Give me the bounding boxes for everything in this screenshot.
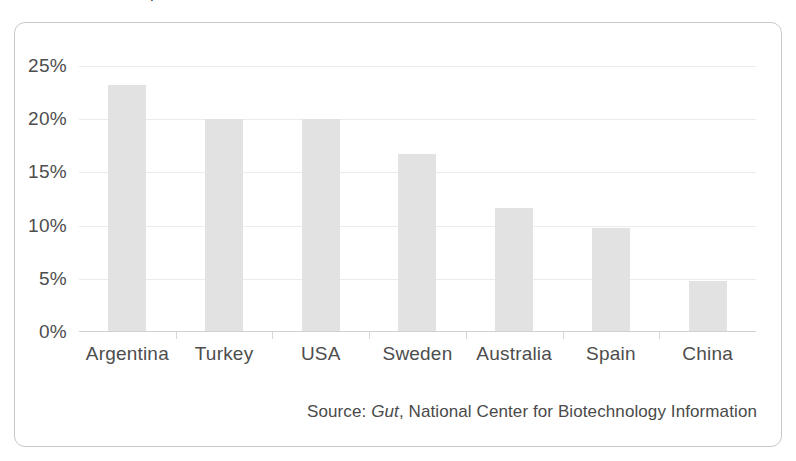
x-tick-label: Turkey	[195, 343, 254, 365]
category-label-slot: USA	[272, 66, 369, 332]
y-tick-label: 20%	[28, 108, 67, 130]
x-axis-tick	[659, 332, 660, 339]
category-label-slot: Argentina	[79, 66, 176, 332]
x-axis-tick	[176, 332, 177, 339]
category-label-slot: Australia	[466, 66, 563, 332]
clipped-title-text: p	[150, 0, 160, 3]
y-tick-label: 10%	[28, 215, 67, 237]
y-tick-label: 5%	[39, 268, 67, 290]
x-tick-label: Spain	[586, 343, 636, 365]
clipped-title-fragment: p	[0, 0, 796, 20]
x-axis-tick	[563, 332, 564, 339]
y-tick-label: 15%	[28, 161, 67, 183]
category-label-slot: Sweden	[369, 66, 466, 332]
chart-panel: 0%5%10%15%20%25% ArgentinaTurkeyUSASwede…	[14, 22, 782, 447]
source-note: Source: Gut, National Center for Biotech…	[307, 402, 757, 422]
source-suffix: , National Center for Biotechnology Info…	[399, 402, 757, 421]
x-tick-label: USA	[301, 343, 341, 365]
x-tick-label: Australia	[476, 343, 552, 365]
category-label-slot: Spain	[563, 66, 660, 332]
source-prefix: Source:	[307, 402, 371, 421]
category-label-slot: Turkey	[176, 66, 273, 332]
category-label-slot: China	[659, 66, 756, 332]
y-tick-label: 25%	[28, 55, 67, 77]
x-axis-tick	[466, 332, 467, 339]
x-tick-label: China	[682, 343, 733, 365]
source-emphasis: Gut	[371, 402, 399, 421]
y-tick-label: 0%	[39, 321, 67, 343]
x-axis-tick	[369, 332, 370, 339]
plot-area: 0%5%10%15%20%25% ArgentinaTurkeyUSASwede…	[79, 66, 756, 332]
x-axis-tick	[272, 332, 273, 339]
x-tick-label: Sweden	[383, 343, 453, 365]
x-tick-label: Argentina	[86, 343, 169, 365]
